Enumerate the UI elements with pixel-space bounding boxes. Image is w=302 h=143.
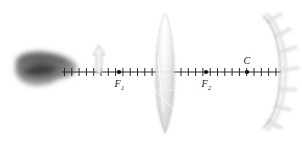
optics-diagram-canvas: F 1 F 2 C [0, 0, 302, 143]
center-of-curvature-c[interactable]: C [244, 55, 251, 74]
focal-point-f2-subscript: 2 [208, 84, 212, 91]
labeled-points: F 1 F 2 C [114, 55, 251, 91]
object-blob [15, 52, 77, 86]
focal-point-f1-subscript: 1 [121, 84, 124, 91]
diagram-svg: F 1 F 2 C [0, 0, 302, 143]
center-of-curvature-c-label: C [244, 55, 251, 66]
object-arrow [93, 46, 105, 74]
mirror-hatching [268, 14, 298, 128]
converging-lens [155, 14, 177, 133]
